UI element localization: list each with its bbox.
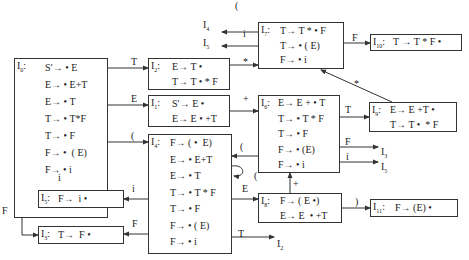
edge-label: i <box>58 172 61 183</box>
state-label: I5: <box>41 192 50 205</box>
lr-item: T→ • F <box>45 130 75 142</box>
state-reference: I3 <box>381 146 387 159</box>
state-label: I9: <box>372 104 381 117</box>
lr-item: F→ • (E) <box>278 144 315 156</box>
lr-item: T→ • F <box>278 128 308 140</box>
lr-item: T→ T * • F <box>280 25 326 37</box>
lr-item: T→ T • * F <box>390 119 438 131</box>
edge-label: i <box>346 151 349 162</box>
edge-label: F <box>2 205 8 216</box>
edge-label: * <box>354 78 359 89</box>
lr-item: T→ T • * F <box>172 76 218 88</box>
lr-item: F→ • ( E) <box>45 147 87 159</box>
state-label: I10: <box>373 36 385 49</box>
lr-item: E→ E • +T <box>280 210 327 222</box>
edge-label: F <box>345 136 351 147</box>
lr-item: T→ • T * F <box>278 113 324 125</box>
lr-item: S′→ E • <box>172 98 204 110</box>
edge-label: T <box>238 228 244 239</box>
state-label: I2: <box>151 60 160 73</box>
state-label: I0: <box>17 60 26 73</box>
lr-item: F→ • ( E) <box>170 220 209 232</box>
lr-item: F→ ( E •) <box>280 195 319 207</box>
lr-item: F→ • i <box>170 236 197 248</box>
edge-label: ) <box>355 196 358 207</box>
lr-item: E→ • T <box>45 96 76 108</box>
edge-label: E <box>131 93 137 104</box>
edge-label: F <box>352 32 358 43</box>
edge-label: T <box>345 104 351 115</box>
state-label: I11: <box>373 201 385 214</box>
state-reference: I5 <box>381 161 387 174</box>
lr-item: T→ • ( E) <box>280 40 320 52</box>
edge-label: i <box>243 28 246 39</box>
lr-item: F→ • i <box>278 159 305 171</box>
edge-label: i <box>132 183 135 194</box>
lr-item: E→ • E+T <box>170 154 212 166</box>
edge-label: ( <box>240 141 243 152</box>
state-label: I1: <box>151 97 160 110</box>
edge-label: + <box>293 178 299 189</box>
state-reference: I5 <box>203 37 209 50</box>
lr-item: T→ • T*F <box>45 113 86 125</box>
state-label: I4: <box>151 136 160 149</box>
lr-item: F→ • i <box>280 54 307 66</box>
lr-item: E→ • T <box>170 170 201 182</box>
state-label: I7: <box>261 24 270 37</box>
state-reference: I2 <box>277 238 283 251</box>
state-label: I6: <box>261 97 270 110</box>
lr-item: E→ T • <box>172 61 202 73</box>
lr-item: E→ • E+T <box>45 79 87 91</box>
state-reference: I4 <box>203 19 209 32</box>
state-label: I3: <box>41 228 50 241</box>
lr0-automaton-diagram: I0:S′→ • EE→ • E+TE→ • TT→ • T*FT→ • FF→… <box>0 0 469 260</box>
edge-label: + <box>243 93 249 104</box>
lr-item: E→ E +T • <box>390 104 435 116</box>
edge-label: F <box>132 218 138 229</box>
edge-label: E <box>242 183 248 194</box>
lr-item: T → T * F • <box>393 36 441 48</box>
lr-item: F→ ( • E) <box>170 137 212 149</box>
edge-label: ( <box>254 170 257 181</box>
lr-item: T→ F • <box>58 229 91 241</box>
lr-item: S′→ • E <box>45 62 77 74</box>
lr-item: F→ (E) • <box>395 202 432 214</box>
lr-item: T→ • F <box>170 203 200 215</box>
lr-item: F→ i • <box>58 193 87 205</box>
lr-item: E→ E + • T <box>278 97 325 109</box>
edge-label: * <box>243 56 248 67</box>
edge-label: T <box>131 56 137 67</box>
edge-i4-loop <box>232 166 243 176</box>
lr-item: E→ E • +T <box>172 113 217 125</box>
lr-item: T→ • T * F <box>170 187 216 199</box>
edge-label: ( <box>131 130 134 141</box>
edge-label: ( <box>235 0 238 11</box>
state-label: I8: <box>261 195 270 208</box>
